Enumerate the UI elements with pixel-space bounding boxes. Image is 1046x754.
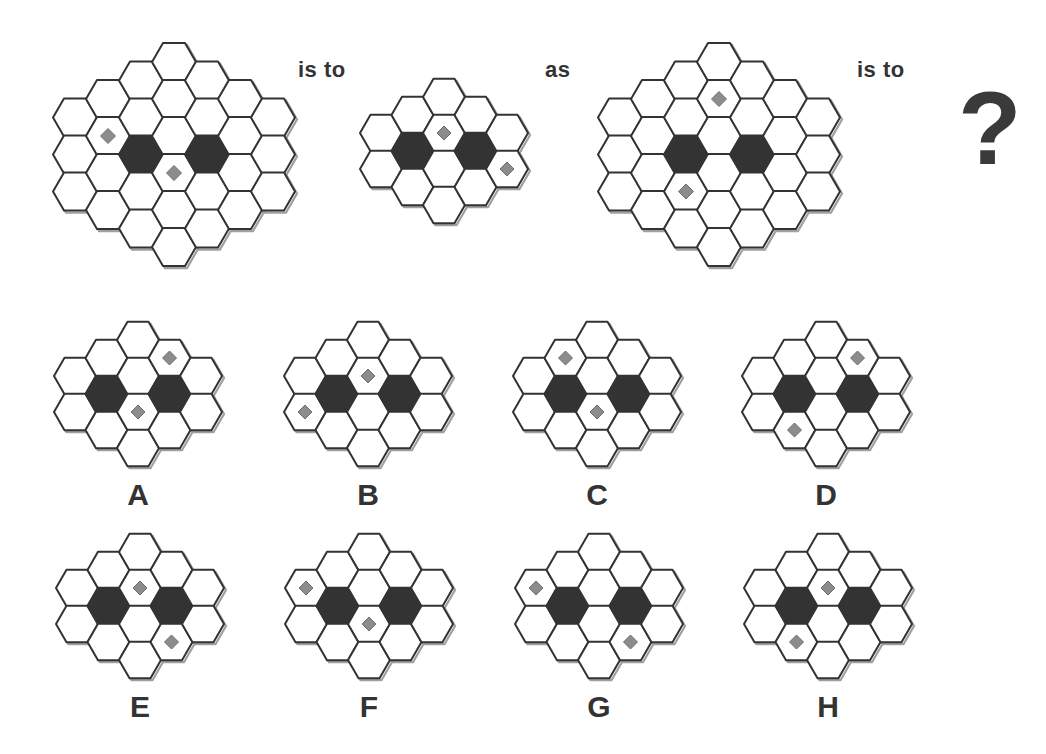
option-label-e[interactable]: E: [110, 692, 170, 722]
hex-cell: [182, 606, 224, 642]
answer-option-g[interactable]: [515, 534, 685, 680]
hex-cell: [251, 172, 295, 210]
option-label-b[interactable]: B: [338, 480, 398, 510]
hex-cell: [410, 358, 452, 394]
answer-option-e[interactable]: [56, 534, 226, 680]
answer-option-b[interactable]: [284, 322, 454, 468]
hex-cell: [870, 570, 912, 606]
option-label-c[interactable]: C: [567, 480, 627, 510]
hex-cell: [639, 394, 681, 430]
hex-cell: [486, 115, 528, 151]
option-label-g[interactable]: G: [569, 692, 629, 722]
hex-cell: [182, 570, 224, 606]
question-mark-icon: ?: [958, 76, 1022, 180]
hex-cell: [870, 606, 912, 642]
hex-cell: [180, 358, 222, 394]
answer-option-h[interactable]: [744, 534, 914, 680]
example-grid-2: [360, 79, 530, 225]
hex-cell: [868, 358, 910, 394]
example-grid-3: [598, 43, 842, 268]
hex-cell: [251, 135, 295, 173]
answer-option-c[interactable]: [513, 322, 683, 468]
hex-cell: [410, 394, 452, 430]
answer-option-a[interactable]: [54, 322, 224, 468]
option-label-a[interactable]: A: [108, 480, 168, 510]
hex-cell: [796, 135, 840, 173]
puzzle-canvas: [0, 0, 1046, 754]
option-label-f[interactable]: F: [339, 692, 399, 722]
hex-cell: [868, 394, 910, 430]
hex-cell: [411, 606, 453, 642]
answer-option-d[interactable]: [742, 322, 912, 468]
hex-cell: [796, 98, 840, 136]
hex-cell: [411, 570, 453, 606]
hex-cell: [641, 570, 683, 606]
hex-cell: [796, 172, 840, 210]
connector-as: as: [545, 57, 570, 83]
connector-is-to-1: is to: [298, 57, 346, 83]
hex-cell: [251, 98, 295, 136]
answer-options: [54, 322, 914, 680]
connector-is-to-2: is to: [857, 57, 905, 83]
example-grid-1: [53, 43, 297, 268]
hex-cell: [641, 606, 683, 642]
hex-cell: [180, 394, 222, 430]
option-label-h[interactable]: H: [798, 692, 858, 722]
hex-cell: [639, 358, 681, 394]
answer-option-f[interactable]: [285, 534, 455, 680]
option-label-d[interactable]: D: [796, 480, 856, 510]
